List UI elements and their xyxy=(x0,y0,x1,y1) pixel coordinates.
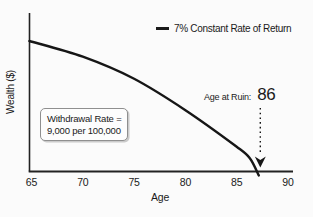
x-tick-label: 70 xyxy=(77,176,88,188)
age-at-ruin-value: 86 xyxy=(257,85,275,105)
withdrawal-rate-line1: Withdrawal Rate = xyxy=(47,113,121,125)
x-axis-label: Age xyxy=(151,191,169,203)
withdrawal-rate-line2: 9,000 per 100,000 xyxy=(47,125,121,137)
ruin-arrowhead-icon xyxy=(255,157,266,168)
age-at-ruin-annotation: Age at Ruin: 86 xyxy=(204,85,275,105)
legend-label: 7% Constant Rate of Return xyxy=(174,23,291,34)
withdrawal-rate-callout: Withdrawal Rate = 9,000 per 100,000 xyxy=(40,108,128,141)
x-tick-label: 80 xyxy=(180,176,191,188)
x-tick-label: 85 xyxy=(231,176,242,188)
age-at-ruin-label: Age at Ruin: xyxy=(204,92,251,102)
retirement-wealth-chart: Wealth ($) 7% Constant Rate of Return Ag… xyxy=(0,0,313,217)
y-axis-label: Wealth ($) xyxy=(5,70,16,114)
legend: 7% Constant Rate of Return xyxy=(156,23,291,34)
x-tick-label: 90 xyxy=(282,176,293,188)
legend-line-swatch xyxy=(156,27,169,30)
x-tick-label: 65 xyxy=(26,176,37,188)
x-tick-label: 75 xyxy=(128,176,139,188)
